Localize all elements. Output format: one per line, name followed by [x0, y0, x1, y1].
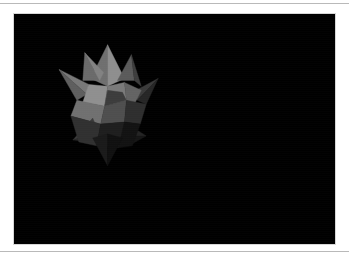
- facet-face-right-mid: [124, 100, 146, 124]
- facet-bottom-spike-right: [108, 134, 123, 166]
- facet-bottom-spike-left: [93, 134, 108, 166]
- bottom-divider-rule: [0, 251, 349, 252]
- top-divider-rule: [0, 3, 349, 4]
- facet-group: [59, 45, 158, 166]
- render-viewport[interactable]: [13, 13, 336, 245]
- screenshot-page: [0, 0, 349, 257]
- small-stellated-dodecahedron-figure[interactable]: [14, 14, 335, 244]
